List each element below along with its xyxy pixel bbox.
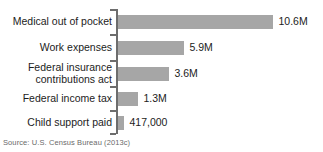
bar-group: 417,000 [118,110,168,135]
category-label: Work expenses [0,42,112,54]
bar-value-label: 417,000 [130,117,168,128]
bar[interactable] [118,41,184,55]
bar-group: 3.6M [118,61,198,86]
plot-area: Medical out of pocket 10.6M Work expense… [0,0,323,136]
bar-row: Child support paid 417,000 [0,110,323,135]
category-label: Federal income tax [0,93,112,105]
bar[interactable] [118,92,138,106]
bar-row: Work expenses 5.9M [0,35,323,60]
bar[interactable] [118,67,169,81]
bar-value-label: 3.6M [175,68,198,79]
bar-group: 10.6M [118,9,308,34]
bar-chart: Medical out of pocket 10.6M Work expense… [0,0,323,152]
bar-row: Federal income tax 1.3M [0,86,323,111]
category-label: Medical out of pocket [0,16,112,28]
bar-value-label: 5.9M [190,42,213,53]
bar-group: 1.3M [118,86,167,111]
bar-row: Federal insurance contributions act 3.6M [0,61,323,86]
bar-row: Medical out of pocket 10.6M [0,9,323,34]
bar-value-label: 1.3M [144,93,167,104]
bar-value-label: 10.6M [279,16,308,27]
source-caption: Source: U.S. Census Bureau (2013c) [3,138,130,147]
bar[interactable] [118,116,124,130]
bar[interactable] [118,15,273,29]
bar-group: 5.9M [118,35,213,60]
category-label: Federal insurance contributions act [0,62,112,85]
category-label: Child support paid [0,117,112,129]
